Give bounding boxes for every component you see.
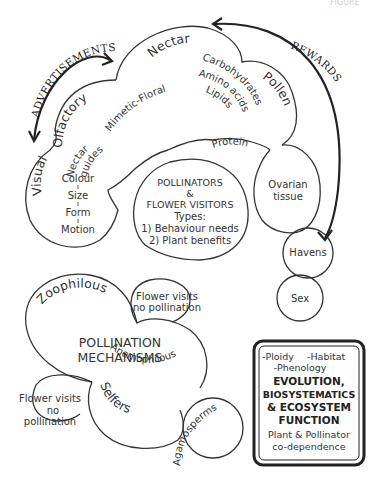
evolution-title-4: FUNCTION (279, 414, 340, 426)
pollinators-line-1: POLLINATORS (157, 177, 222, 188)
svg-text:Zoophilous: Zoophilous (33, 275, 109, 306)
flower-visits-left-2: no (47, 405, 59, 416)
protein-label: Protein (210, 135, 249, 149)
svg-text:Nectar: Nectar (144, 30, 191, 60)
flower-visits-left-3: pollination (24, 416, 76, 427)
visual-trait-form: Form (65, 207, 90, 218)
visual-label: Visual (29, 153, 50, 197)
evolution-title-1: EVOLUTION, (273, 375, 345, 387)
havens-label: Havens (289, 247, 326, 258)
mimetic-floral-label: Mimetic-Floral (103, 83, 167, 133)
pollinators-line-5: 1) Behaviour needs (141, 223, 239, 234)
zoophilous-label: Zoophilous (33, 275, 109, 306)
flower-visits-top-2: no pollination (133, 302, 201, 313)
corner-text: FIGURE (330, 0, 360, 7)
pollination-diagram: FIGURE ADVERTISEMENTS REWARDS Nectar Olf… (0, 0, 373, 479)
ovarian-tissue-label-1: Ovarian (268, 179, 307, 190)
pollinators-line-4: Types: (173, 211, 206, 222)
mechanisms-title-1: POLLINATION (79, 335, 161, 350)
phenology-label: -Phenology (274, 362, 327, 373)
rewards-label: REWARDS (289, 39, 344, 84)
selfers-label: Selfers (97, 380, 133, 416)
visual-trait-motion: Motion (61, 224, 95, 235)
ovarian-tissue-label-2: tissue (273, 191, 303, 202)
agamosperms-label: Agamosperms (171, 401, 219, 466)
ploidy-label: -Ploidy (262, 351, 294, 362)
nectar-label: Nectar (144, 30, 191, 60)
svg-text:Agamosperms: Agamosperms (171, 401, 219, 466)
svg-text:Visual: Visual (29, 153, 50, 197)
flower-visits-top-1: Flower visits (136, 291, 198, 302)
svg-text:Protein: Protein (210, 135, 249, 149)
pollinators-line-2: & (186, 188, 194, 199)
pollinators-line-3: FLOWER VISITORS (147, 199, 234, 210)
flower-visits-left-1: Flower visits (19, 393, 81, 404)
habitat-label: -Habitat (307, 351, 346, 362)
svg-text:Selfers: Selfers (97, 380, 133, 416)
svg-text:REWARDS: REWARDS (289, 39, 344, 84)
evolution-title-3: & ECOSYSTEM (267, 401, 351, 413)
evolution-footer-2: co-dependence (272, 441, 346, 452)
sex-label: Sex (291, 293, 309, 304)
evolution-title-2: BIOSYSTEMATICS (263, 389, 356, 400)
evolution-footer-1: Plant & Pollinator (268, 429, 350, 440)
olfactory-label: Olfactory (50, 89, 90, 148)
visual-trait-colour: Colour (62, 173, 95, 184)
pollinators-line-6: 2) Plant benefits (149, 235, 231, 246)
visual-trait-size: Size (68, 190, 89, 201)
mechanisms-title-2: MECHANISMS (77, 350, 162, 365)
svg-text:Mimetic-Floral: Mimetic-Floral (103, 83, 167, 133)
svg-text:Olfactory: Olfactory (50, 89, 90, 148)
